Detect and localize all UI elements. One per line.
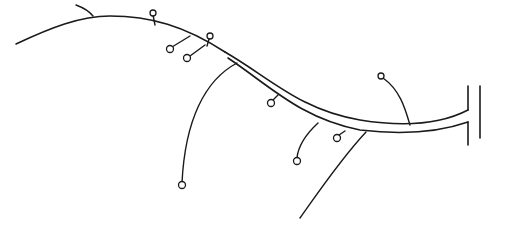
stem-diagram (0, 0, 512, 235)
branch-top-4 (190, 45, 205, 56)
branches (150, 10, 410, 218)
branch-right (383, 78, 410, 125)
branch-mid-1 (273, 95, 278, 100)
circle-node-icon (179, 182, 186, 189)
branch-long-left (182, 63, 237, 183)
circle-node-icon (207, 33, 213, 39)
circle-node-icon (294, 158, 301, 165)
circle-node-icon (378, 73, 384, 79)
circle-node-icon (150, 10, 156, 16)
stem-spur (76, 5, 93, 16)
circle-node-icon (184, 55, 191, 62)
circle-node-icon (334, 135, 341, 142)
branch-mid-2 (297, 123, 318, 158)
branch-mid-3 (339, 131, 345, 135)
diagram-canvas (0, 0, 512, 235)
main-stem (16, 16, 468, 132)
branch-top-2 (172, 36, 190, 47)
tube-upper-wall (225, 52, 468, 124)
stem-single-line (16, 16, 225, 52)
circle-node-icon (268, 100, 275, 107)
circle-node-icon (167, 46, 174, 53)
branch-long-bottom (300, 132, 366, 218)
branch-top-3 (207, 39, 209, 46)
terminal-opening (468, 86, 480, 145)
